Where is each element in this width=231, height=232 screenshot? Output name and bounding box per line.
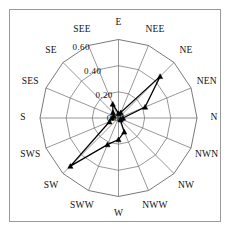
direction-label-nww: NWW [142,201,167,211]
radial-tick-label-r2: 0.40 [84,66,101,75]
direction-label-nee: NEE [145,25,164,35]
direction-label-w: W [114,209,123,219]
direction-label-ses: SES [22,77,39,87]
direction-label-sw: SW [44,181,59,191]
direction-label-nwn: NWN [195,150,218,160]
direction-label-sws: SWS [20,150,40,160]
direction-label-nw: NW [178,181,194,191]
figure-canvas: ENEENENENNNWNNWNWWWSWWSWSWSSSESSESEE 0.0… [0,0,231,232]
direction-label-ne: NE [179,46,192,56]
direction-label-n: N [210,113,217,123]
direction-label-sww: SWW [70,201,94,211]
direction-label-see: SEE [73,25,91,35]
radial-tick-label-r1: 0.20 [95,90,112,99]
direction-label-e: E [115,18,121,28]
direction-label-se: SE [45,46,57,56]
direction-label-s: S [20,113,25,123]
radial-tick-label-r0: 0.00 [107,114,124,123]
radial-tick-label-r3: 0.60 [73,43,90,52]
direction-label-nen: NEN [197,77,217,87]
